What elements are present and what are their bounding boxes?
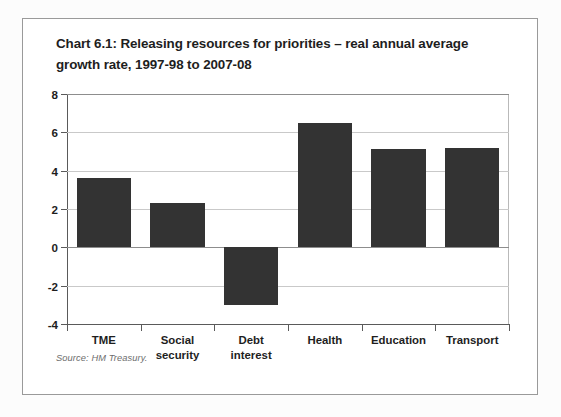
category-label-line: Transport bbox=[435, 333, 509, 348]
category-label-debt-interest: Debtinterest bbox=[214, 333, 288, 363]
category-separator bbox=[435, 324, 436, 331]
gridline-6 bbox=[67, 132, 509, 133]
bar-health bbox=[298, 123, 352, 248]
chart-title: Chart 6.1: Releasing resources for prior… bbox=[56, 33, 508, 75]
y-tick-mark bbox=[61, 94, 67, 95]
category-label-line: security bbox=[141, 348, 215, 363]
category-label-line: Debt bbox=[214, 333, 288, 348]
gridline-4 bbox=[67, 171, 509, 172]
chart-page: Chart 6.1: Releasing resources for prior… bbox=[0, 0, 561, 417]
gridline--2 bbox=[67, 286, 509, 287]
y-tick-mark bbox=[61, 247, 67, 248]
y-tick-mark bbox=[61, 209, 67, 210]
category-label-health: Health bbox=[288, 333, 362, 348]
y-axis-label: -2 bbox=[48, 279, 58, 292]
category-separator bbox=[141, 324, 142, 331]
category-separator bbox=[288, 324, 289, 331]
source-note: Source: HM Treasury. bbox=[56, 353, 148, 363]
y-axis-label: 8 bbox=[52, 88, 58, 101]
figure-frame: Chart 6.1: Releasing resources for prior… bbox=[22, 18, 538, 395]
category-label-line: Social bbox=[141, 333, 215, 348]
category-separator bbox=[509, 324, 510, 331]
category-label-social-security: Socialsecurity bbox=[141, 333, 215, 363]
category-separator bbox=[67, 324, 68, 331]
category-label-line: Health bbox=[288, 333, 362, 348]
category-label-transport: Transport bbox=[435, 333, 509, 348]
gridline-8 bbox=[67, 94, 509, 95]
y-axis-label: 2 bbox=[52, 203, 58, 216]
gridline-0 bbox=[67, 247, 509, 248]
y-tick-mark bbox=[61, 132, 67, 133]
bar-social-security bbox=[150, 203, 204, 247]
category-label-line: Education bbox=[362, 333, 436, 348]
bar-debt-interest bbox=[224, 247, 278, 305]
category-label-tme: TME bbox=[67, 333, 141, 348]
y-axis-label: -4 bbox=[48, 318, 58, 331]
category-label-education: Education bbox=[362, 333, 436, 348]
bar-education bbox=[371, 149, 425, 248]
category-separator bbox=[362, 324, 363, 331]
gridline-2 bbox=[67, 209, 509, 210]
category-label-line: interest bbox=[214, 348, 288, 363]
y-axis-label: 0 bbox=[52, 241, 58, 254]
y-axis-label: 6 bbox=[52, 126, 58, 139]
bar-transport bbox=[445, 148, 499, 248]
bar-tme bbox=[77, 178, 131, 247]
y-tick-mark bbox=[61, 286, 67, 287]
plot-area: -4-202468 bbox=[67, 94, 509, 324]
category-separator bbox=[214, 324, 215, 331]
y-tick-mark bbox=[61, 171, 67, 172]
y-axis-label: 4 bbox=[52, 164, 58, 177]
category-label-line: TME bbox=[67, 333, 141, 348]
